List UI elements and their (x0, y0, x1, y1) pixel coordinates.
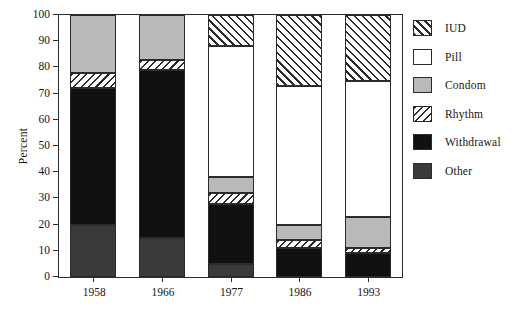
bar-segment-withdrawal[interactable] (139, 70, 185, 238)
legend-item-label: Withdrawal (445, 136, 501, 148)
y-axis-tick-label: 80 (39, 59, 51, 74)
bar-segment-other[interactable] (70, 225, 116, 277)
y-axis-tick: 20 (53, 224, 59, 225)
bar-segment-condom[interactable] (276, 225, 322, 241)
plot-area: 0102030405060708090100195819661977198619… (58, 14, 403, 278)
bar-segment-iud[interactable] (345, 15, 391, 81)
bar-segment-condom[interactable] (70, 15, 116, 73)
legend-swatch-icon (413, 106, 432, 122)
y-axis-tick: 40 (53, 171, 59, 172)
bar-segment-condom[interactable] (345, 217, 391, 248)
bar-segment-withdrawal[interactable] (208, 204, 254, 264)
y-axis-tick-label: 30 (39, 190, 51, 205)
y-axis-tick: 60 (53, 119, 59, 120)
bar-segment-withdrawal[interactable] (345, 253, 391, 277)
legend-item-label: Rhythm (445, 108, 483, 120)
bar-segment-rhythm[interactable] (70, 73, 116, 89)
bar-segment-withdrawal[interactable] (276, 248, 322, 277)
y-axis-tick-label: 100 (33, 7, 50, 22)
y-axis-tick: 70 (53, 93, 59, 94)
y-axis-tick: 0 (53, 276, 59, 277)
legend-item-label: Other (445, 165, 472, 177)
legend-swatch-icon (413, 163, 432, 179)
legend-swatch-icon (413, 77, 432, 93)
bar-segment-iud[interactable] (276, 15, 322, 86)
bar-segment-other[interactable] (208, 264, 254, 277)
bar-1977[interactable] (208, 15, 254, 277)
y-axis-label: Percent (17, 101, 29, 191)
bar-segment-rhythm[interactable] (345, 248, 391, 253)
y-axis-tick-label: 0 (44, 269, 50, 284)
x-axis-tick: 1966 (162, 277, 163, 282)
x-axis-tick: 1986 (299, 277, 300, 282)
chart-title-clipped (70, 0, 410, 5)
legend-item-other[interactable]: Other (413, 157, 523, 186)
y-axis-tick-label: 10 (39, 243, 51, 258)
bar-segment-pill[interactable] (276, 86, 322, 225)
legend-item-iud[interactable]: IUD (413, 14, 523, 43)
bar-1966[interactable] (139, 15, 185, 277)
y-axis-tick-label: 70 (39, 86, 51, 101)
x-axis-tick-label: 1986 (274, 285, 326, 299)
x-axis-tick-label: 1977 (206, 285, 258, 299)
bar-segment-withdrawal[interactable] (70, 88, 116, 224)
legend-item-withdrawal[interactable]: Withdrawal (413, 128, 523, 157)
bar-segment-rhythm[interactable] (139, 60, 185, 70)
legend-item-condom[interactable]: Condom (413, 71, 523, 100)
bar-segment-iud[interactable] (208, 15, 254, 46)
y-axis-tick: 10 (53, 250, 59, 251)
legend-item-pill[interactable]: Pill (413, 43, 523, 72)
legend-item-label: Pill (445, 51, 462, 63)
x-axis-tick-label: 1958 (68, 285, 120, 299)
legend-swatch-icon (413, 134, 432, 150)
legend-item-rhythm[interactable]: Rhythm (413, 100, 523, 129)
bar-segment-pill[interactable] (208, 46, 254, 177)
legend-item-label: IUD (445, 22, 466, 34)
x-axis-tick: 1977 (231, 277, 232, 282)
y-axis-tick-label: 60 (39, 112, 51, 127)
bar-segment-other[interactable] (139, 238, 185, 277)
y-axis-tick: 30 (53, 197, 59, 198)
y-axis-tick: 100 (53, 14, 59, 15)
bar-1993[interactable] (345, 15, 391, 277)
x-axis-tick: 1958 (93, 277, 94, 282)
legend-swatch-icon (413, 49, 432, 65)
bar-segment-pill[interactable] (345, 81, 391, 217)
chart-legend: IUDPillCondomRhythmWithdrawalOther (413, 14, 523, 185)
y-axis-tick-label: 90 (39, 33, 51, 48)
y-axis-tick: 80 (53, 66, 59, 67)
bar-1958[interactable] (70, 15, 116, 277)
y-axis-tick: 90 (53, 40, 59, 41)
bar-segment-rhythm[interactable] (208, 193, 254, 203)
y-axis-tick-label: 50 (39, 138, 51, 153)
x-axis-tick-label: 1966 (137, 285, 189, 299)
bar-segment-rhythm[interactable] (276, 240, 322, 248)
bar-1986[interactable] (276, 15, 322, 277)
bar-segment-condom[interactable] (208, 177, 254, 193)
y-axis-tick-label: 20 (39, 217, 51, 232)
y-axis-tick: 50 (53, 145, 59, 146)
y-axis-tick-label: 40 (39, 164, 51, 179)
legend-swatch-icon (413, 20, 432, 36)
legend-item-label: Condom (445, 79, 486, 91)
bar-segment-condom[interactable] (139, 15, 185, 60)
x-axis-tick: 1993 (368, 277, 369, 282)
chart-figure: Percent 01020304050607080901001958196619… (0, 0, 525, 333)
x-axis-tick-label: 1993 (343, 285, 395, 299)
